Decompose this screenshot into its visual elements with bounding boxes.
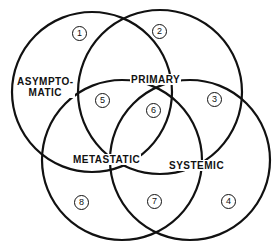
region-8: 8 — [74, 195, 89, 210]
region-2: 2 — [152, 24, 167, 39]
region-5: 5 — [95, 93, 110, 108]
label-metastatic: METASTATIC — [72, 154, 141, 165]
venn-diagram — [0, 0, 278, 247]
label-primary: PRIMARY — [130, 74, 181, 85]
label-asymptomatic: ASYMPTO- MATIC — [16, 76, 75, 98]
region-3: 3 — [207, 92, 222, 107]
region-4: 4 — [221, 194, 236, 209]
region-7: 7 — [147, 194, 162, 209]
label-asymptomatic-line2: MATIC — [17, 87, 74, 98]
label-asymptomatic-line1: ASYMPTO- — [17, 76, 74, 87]
region-1: 1 — [72, 26, 87, 41]
label-systemic: SYSTEMIC — [168, 160, 225, 171]
region-6: 6 — [146, 103, 161, 118]
